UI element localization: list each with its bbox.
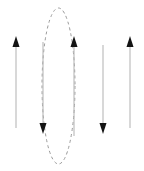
arrow-4-head-icon — [100, 123, 107, 134]
arrow-layer — [13, 36, 134, 136]
arrow-5-head-icon — [127, 36, 134, 47]
arrow-3 — [71, 36, 78, 136]
arrow-2 — [40, 42, 47, 134]
arrow-1 — [13, 36, 20, 128]
arrow-4 — [100, 45, 107, 134]
dashed-ellipse — [42, 8, 75, 164]
arrow-field-diagram — [0, 0, 144, 171]
arrow-2-head-icon — [40, 123, 47, 134]
diagram-canvas — [0, 0, 144, 171]
ellipse-layer — [42, 8, 75, 164]
arrow-1-head-icon — [13, 36, 20, 47]
arrow-5 — [127, 36, 134, 128]
